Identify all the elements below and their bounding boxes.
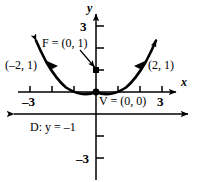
x-axis-label: x	[181, 76, 187, 88]
focus-leader-line	[80, 50, 95, 67]
y-axis-label: y	[87, 2, 92, 14]
x-tick-label-neg3: –3	[22, 95, 35, 108]
y-tick-label-neg3: –3	[76, 152, 89, 165]
focus-marker	[93, 67, 99, 73]
left-point-label: (–2, 1)	[5, 59, 37, 71]
focus-label: F = (0, 1)	[42, 37, 87, 49]
y-tick-label-3: 3	[80, 20, 87, 33]
vertex-label: V = (0, 0)	[99, 95, 146, 107]
figure-canvas	[0, 0, 202, 182]
directrix-label: D: y = –1	[30, 121, 76, 133]
right-point-marker	[134, 61, 145, 70]
x-tick-label-3: 3	[157, 95, 164, 108]
parabola-figure: x y –3 3 3 –3 F = (0, 1) V = (0, 0) (–2,…	[0, 0, 202, 182]
left-point-marker	[47, 61, 58, 70]
right-point-label: (2, 1)	[148, 59, 174, 71]
